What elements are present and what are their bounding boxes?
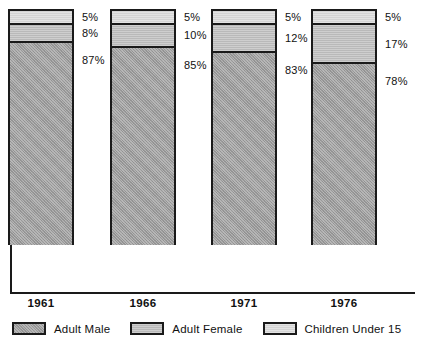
segment-adult-female-1971[interactable]: 12%: [213, 23, 275, 51]
segment-children-1976[interactable]: 5%: [313, 11, 375, 23]
data-label-adult-male-1976: 78%: [385, 75, 408, 87]
stacked-bar-1961[interactable]: 5% 8% 87%: [8, 9, 74, 245]
data-label-children-1966: 5%: [184, 11, 200, 23]
legend-swatch-children-under-15: [263, 322, 297, 335]
segment-children-1961[interactable]: 5%: [10, 11, 72, 23]
legend-label-children-under-15: Children Under 15: [305, 323, 402, 335]
data-label-adult-male-1971: 83%: [285, 64, 308, 76]
data-label-adult-female-1971: 12%: [285, 32, 308, 44]
data-label-children-1961: 5%: [82, 11, 98, 23]
segment-adult-male-1976[interactable]: 78%: [313, 62, 375, 245]
bar-group-1961: 5% 8% 87%: [8, 9, 74, 245]
segment-children-1971[interactable]: 5%: [213, 11, 275, 23]
bar-group-1966: 5% 10% 85%: [110, 9, 176, 245]
chart-legend: Adult Male Adult Female Children Under 1…: [12, 322, 421, 335]
bar-group-1976: 5% 17% 78%: [311, 9, 377, 245]
stacked-bar-1966[interactable]: 5% 10% 85%: [110, 9, 176, 245]
legend-label-adult-male: Adult Male: [54, 323, 110, 335]
stacked-bar-chart: 5% 8% 87% 5% 10% 85%: [0, 0, 421, 343]
legend-item-children-under-15[interactable]: Children Under 15: [263, 322, 402, 335]
legend-swatch-adult-female: [130, 322, 164, 335]
stacked-bar-1971[interactable]: 5% 12% 83%: [211, 9, 277, 245]
segment-adult-male-1966[interactable]: 85%: [112, 46, 174, 245]
legend-item-adult-male[interactable]: Adult Male: [12, 322, 110, 335]
stacked-bar-1976[interactable]: 5% 17% 78%: [311, 9, 377, 245]
data-label-adult-male-1961: 87%: [82, 54, 105, 66]
segment-adult-female-1976[interactable]: 17%: [313, 23, 375, 63]
data-label-adult-female-1961: 8%: [82, 27, 98, 39]
legend-swatch-adult-male: [12, 322, 46, 335]
bar-group-1971: 5% 12% 83%: [211, 9, 277, 245]
legend-item-adult-female[interactable]: Adult Female: [130, 322, 242, 335]
x-tick-label-1961: 1961: [8, 297, 74, 309]
segment-adult-female-1966[interactable]: 10%: [112, 23, 174, 46]
x-tick-label-1971: 1971: [211, 297, 277, 309]
plot-area: 5% 8% 87% 5% 10% 85%: [0, 0, 421, 294]
data-label-adult-female-1976: 17%: [385, 38, 408, 50]
data-label-adult-female-1966: 10%: [184, 29, 207, 41]
segment-children-1966[interactable]: 5%: [112, 11, 174, 23]
data-label-children-1971: 5%: [285, 11, 301, 23]
legend-label-adult-female: Adult Female: [172, 323, 242, 335]
data-label-adult-male-1966: 85%: [184, 59, 207, 71]
x-tick-label-1966: 1966: [110, 297, 176, 309]
segment-adult-male-1971[interactable]: 83%: [213, 51, 275, 245]
segment-adult-male-1961[interactable]: 87%: [10, 41, 72, 245]
x-tick-label-1976: 1976: [311, 297, 377, 309]
data-label-children-1976: 5%: [385, 11, 401, 23]
segment-adult-female-1961[interactable]: 8%: [10, 23, 72, 42]
